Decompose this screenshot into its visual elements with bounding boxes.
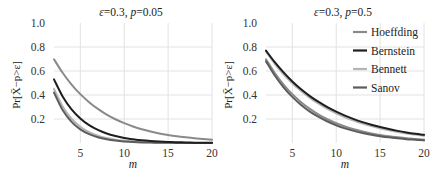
chart-left-svg: 51015200.20.40.60.81.0ε=0.3, p=0.05mPr[X… <box>0 0 222 177</box>
chart-title: ε=0.3, p=0.5 <box>314 6 372 19</box>
x-tick-label: 5 <box>77 147 83 159</box>
y-axis-label: Pr[X̄−p>ε] <box>10 61 22 109</box>
x-tick-label: 20 <box>418 147 430 159</box>
legend-item-sanov: Sanov <box>353 82 400 94</box>
legend-label: Bernstein <box>371 45 415 57</box>
legend-item-bernstein: Bernstein <box>353 45 415 57</box>
x-tick-label: 5 <box>289 147 295 159</box>
x-tick-label: 15 <box>374 147 386 159</box>
chart-right-svg: 51015200.20.40.60.81.0ε=0.3, p=0.5mPr[X̄… <box>222 0 447 177</box>
legend-label: Hoeffding <box>371 26 418 39</box>
legend-item-hoeffding: Hoeffding <box>353 26 418 39</box>
series-line-sanov <box>54 93 212 143</box>
x-tick-label: 15 <box>162 147 174 159</box>
legend-label: Sanov <box>371 82 400 94</box>
y-axis-label: Pr[X̄−p>ε] <box>222 61 234 109</box>
y-tick-label: 1.0 <box>31 17 46 29</box>
y-tick-label: 0.8 <box>31 41 46 53</box>
y-tick-label: 0.8 <box>243 41 258 53</box>
chart-right: 51015200.20.40.60.81.0ε=0.3, p=0.5mPr[X̄… <box>222 0 447 177</box>
y-tick-label: 1.0 <box>243 17 258 29</box>
y-tick-label: 0.4 <box>243 89 258 101</box>
x-tick-label: 20 <box>206 147 218 159</box>
legend-item-bennett: Bennett <box>353 63 408 75</box>
legend-label: Bennett <box>371 63 408 75</box>
y-tick-label: 0.6 <box>31 65 46 77</box>
chart-title: ε=0.3, p=0.05 <box>99 6 163 19</box>
y-tick-label: 0.2 <box>243 113 258 125</box>
series-line-bernstein <box>54 79 212 142</box>
y-tick-label: 0.4 <box>31 89 46 101</box>
series-group <box>54 59 212 143</box>
y-tick-label: 0.2 <box>31 113 46 125</box>
x-axis-label: m <box>129 158 137 170</box>
x-axis-label: m <box>341 158 349 170</box>
y-tick-label: 0.6 <box>243 65 258 77</box>
chart-left: 51015200.20.40.60.81.0ε=0.3, p=0.05mPr[X… <box>0 0 222 177</box>
grid <box>266 23 424 143</box>
legend: HoeffdingBernsteinBennettSanov <box>353 26 418 94</box>
